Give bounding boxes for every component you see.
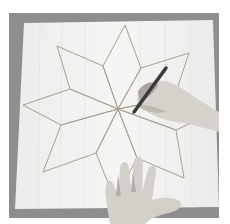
star-drawing [0, 0, 230, 224]
photo-scene [0, 0, 230, 224]
